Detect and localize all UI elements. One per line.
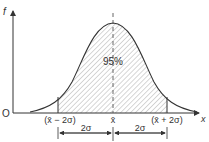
right-bound-label: (x̄ + 2σ) [151,115,182,125]
mean-label: x̄ [111,115,116,125]
left-span-label: 2σ [81,123,92,133]
center-percent-label: 95% [103,56,123,67]
normal-distribution-diagram: f O x 95% (x̄ − 2σ) x̄ (x̄ + 2σ) 2σ 2σ [0,0,209,142]
shaded-area [30,23,197,113]
left-bound-label: (x̄ − 2σ) [44,115,75,125]
right-span-label: 2σ [135,123,146,133]
y-axis-label: f [3,6,7,17]
origin-label: O [2,108,10,119]
x-axis-label: x [200,114,206,124]
